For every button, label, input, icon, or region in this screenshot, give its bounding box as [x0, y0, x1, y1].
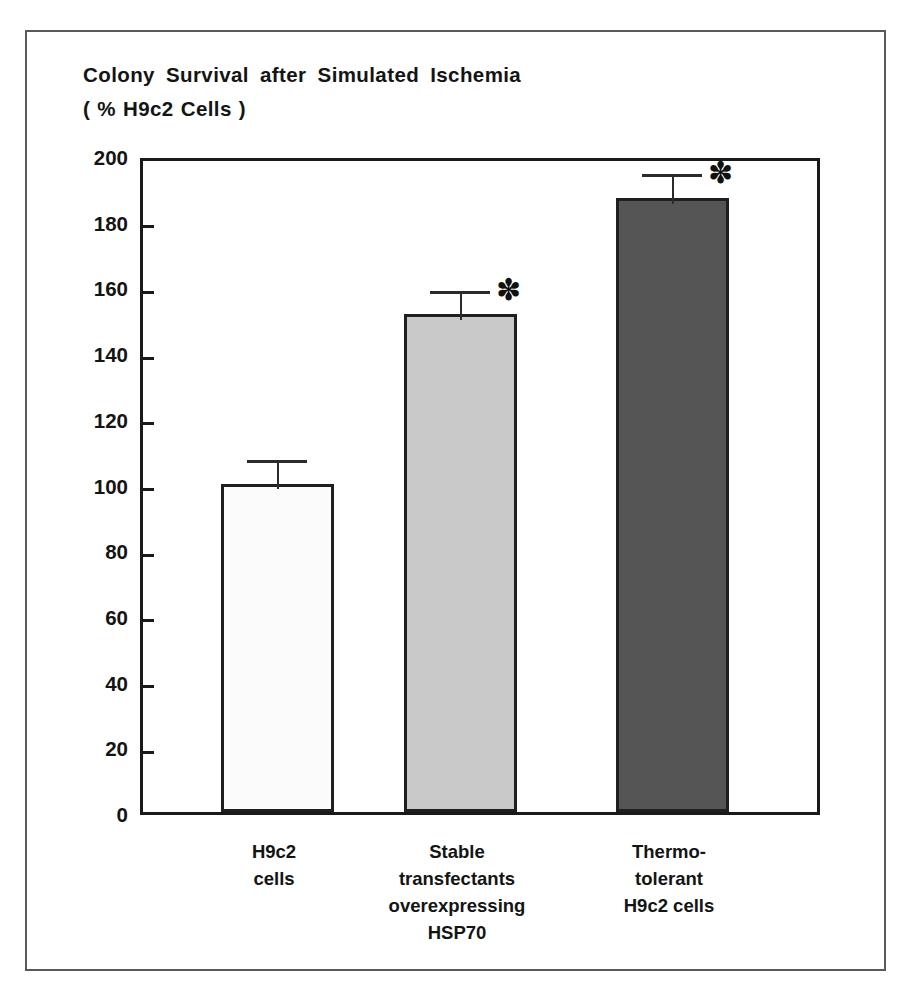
- significance-asterisk-3: ✽: [708, 158, 733, 188]
- y-axis-tick: [143, 357, 154, 360]
- y-axis-tick-label: 60: [105, 606, 128, 630]
- chart-title-line-1: Colony Survival after Simulated Ischemia: [83, 58, 521, 92]
- y-axis-tick: [143, 422, 154, 425]
- error-bar-3: [642, 174, 702, 204]
- y-axis-tick-label: 140: [94, 343, 128, 367]
- y-axis-tick-label: 120: [94, 409, 128, 433]
- error-bar-1: [247, 460, 307, 490]
- y-axis-tick: [143, 619, 154, 622]
- y-axis-tick: [143, 488, 154, 491]
- figure-container: Colony Survival after Simulated Ischemia…: [0, 0, 906, 995]
- error-bar-stem: [460, 291, 462, 321]
- y-axis-tick-label: 160: [94, 277, 128, 301]
- bar-3: [616, 198, 729, 812]
- y-axis-tick: [143, 291, 154, 294]
- y-axis-tick-label: 180: [94, 212, 128, 236]
- error-bar-stem: [277, 460, 279, 490]
- chart-title-block: Colony Survival after Simulated Ischemia…: [83, 58, 521, 126]
- y-axis-tick: [143, 751, 154, 754]
- category-label-3: Thermo- tolerant H9c2 cells: [559, 838, 779, 919]
- error-bar-2: [430, 291, 490, 321]
- bar-1: [221, 484, 334, 813]
- y-axis-tick: [143, 225, 154, 228]
- y-axis-tick: [143, 685, 154, 688]
- y-axis-tick-label: 20: [105, 737, 128, 761]
- significance-asterisk-2: ✽: [496, 275, 521, 305]
- y-axis-tick-label: 100: [94, 475, 128, 499]
- category-label-2: Stable transfectants overexpressing HSP7…: [347, 838, 567, 946]
- y-axis-tick-label: 0: [117, 803, 128, 827]
- bar-2: [404, 314, 517, 812]
- y-axis-tick-label: 80: [105, 540, 128, 564]
- plot-area: ✽✽: [140, 158, 820, 815]
- y-axis-tick-label: 40: [105, 672, 128, 696]
- y-axis-tick-labels: 020406080100120140160180200: [60, 158, 128, 815]
- error-bar-stem: [672, 174, 674, 204]
- y-axis-tick: [143, 554, 154, 557]
- chart-title-line-2: ( % H9c2 Cells ): [83, 92, 521, 126]
- y-axis-tick-label: 200: [94, 146, 128, 170]
